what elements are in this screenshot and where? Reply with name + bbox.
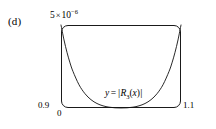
- abs-close-bar: |: [140, 86, 143, 98]
- multiplication-sign: ×: [55, 10, 62, 20]
- y-axis-min-label: 0.9: [38, 100, 49, 110]
- equals-sign: =: [109, 88, 117, 98]
- x-axis-origin-label: 0: [57, 108, 62, 118]
- figure-panel: (d) 5×10−6 0.9 0 1.1 y=|R3(x)|: [0, 0, 216, 129]
- y-max-exponent: −6: [71, 8, 78, 15]
- plot-area: y=|R3(x)|: [61, 25, 181, 108]
- x-axis-max-label: 1.1: [183, 100, 194, 110]
- y-axis-max-label: 5×10−6: [50, 10, 78, 21]
- y-max-base: 10: [62, 10, 72, 20]
- curve-equation-label: y=|R3(x)|: [105, 87, 143, 99]
- panel-label: (d): [8, 15, 21, 27]
